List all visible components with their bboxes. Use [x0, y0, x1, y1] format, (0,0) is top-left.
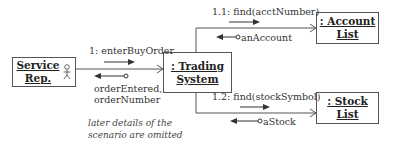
account-list-line2: List: [336, 28, 358, 41]
message-1-1-label: 1.1: find(acctNumber): [212, 6, 319, 17]
note-line1: later details of the: [88, 117, 172, 129]
service-rep-object: Service Rep.: [12, 57, 76, 87]
trading-system-line2: System: [176, 73, 218, 86]
note-line2: scenario are omitted: [88, 129, 183, 141]
service-rep-line1: Service: [17, 59, 60, 72]
trading-system-object: : Trading System: [163, 52, 232, 93]
message-1-2-return: aStock: [263, 116, 296, 127]
account-list-object: : Account List: [316, 12, 379, 44]
message-1-1-return: anAccount: [241, 32, 292, 43]
stock-list-line1: : Stock: [327, 95, 368, 108]
stock-list-object: : Stock List: [316, 92, 379, 124]
account-list-line1: : Account: [320, 15, 376, 28]
actor-icon: [63, 64, 71, 80]
message-1-2-label: 1.2: find(stockSymbol): [212, 91, 321, 102]
message-1-return-line2: orderNumber: [94, 94, 160, 105]
message-1-label: 1: enterBuyOrder: [89, 45, 174, 56]
stock-list-line2: List: [336, 108, 358, 121]
message-1-return-line1: orderEntered,: [94, 83, 162, 94]
service-rep-line2: Rep.: [17, 72, 60, 85]
trading-system-line1: : Trading: [171, 60, 224, 73]
